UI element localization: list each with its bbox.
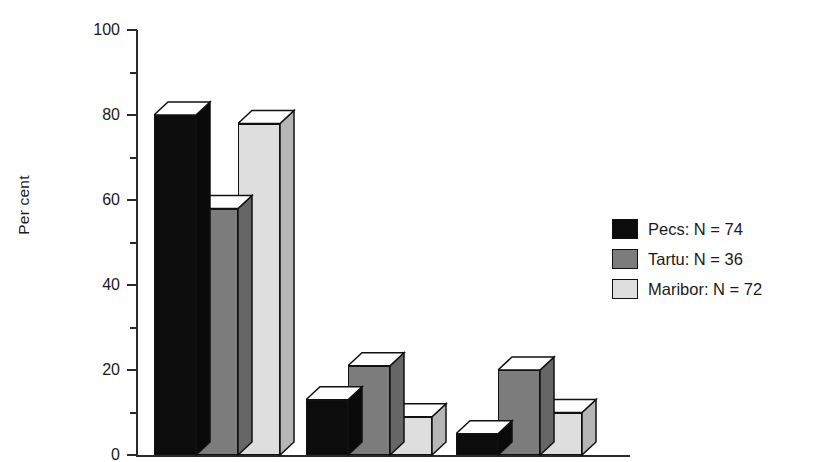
plot-area: [136, 30, 636, 457]
y-axis-tick-label: 60: [58, 192, 120, 208]
y-axis-major-tick: [127, 454, 137, 456]
legend-swatch-icon: [612, 219, 638, 239]
y-axis-minor-tick: [130, 412, 137, 414]
y-axis-label: Per cent: [15, 145, 33, 265]
bar-front-face: [306, 400, 348, 455]
y-axis-tick-label: 40: [58, 277, 120, 293]
legend-item: Maribor: N = 72: [612, 274, 817, 304]
bar: [456, 30, 512, 462]
bar: [154, 30, 210, 462]
y-axis-minor-tick: [130, 327, 137, 329]
y-axis-minor-tick: [130, 72, 137, 74]
y-axis-tick-label: 20: [58, 362, 120, 378]
legend-item-label: Maribor: N = 72: [648, 280, 762, 299]
legend-item-label: Pecs: N = 74: [648, 220, 743, 239]
y-axis-tick-label: 100: [58, 22, 120, 38]
y-axis-tick-labels: 100806040200: [50, 0, 120, 462]
bar-top-face: [306, 30, 362, 462]
y-axis-major-tick: [127, 284, 137, 286]
bar-front-face: [154, 115, 196, 455]
y-axis-major-tick: [127, 114, 137, 116]
y-axis-minor-tick: [130, 157, 137, 159]
bar-chart: Per cent 100806040200 Pecs: N = 74Tartu:…: [0, 0, 823, 462]
legend-swatch-icon: [612, 249, 638, 269]
y-axis-tick-label: 80: [58, 107, 120, 123]
y-axis-tick-label: 0: [58, 447, 120, 462]
y-axis-major-tick: [127, 369, 137, 371]
legend-item: Pecs: N = 74: [612, 214, 817, 244]
y-axis-minor-tick: [130, 242, 137, 244]
bar-top-face: [456, 30, 512, 462]
y-axis-major-tick: [127, 29, 137, 31]
legend-item-label: Tartu: N = 36: [648, 250, 743, 269]
legend-item: Tartu: N = 36: [612, 244, 817, 274]
bar-front-face: [456, 434, 498, 455]
bar: [306, 30, 362, 462]
legend-swatch-icon: [612, 279, 638, 299]
y-axis-major-tick: [127, 199, 137, 201]
chart-legend: Pecs: N = 74Tartu: N = 36Maribor: N = 72: [612, 214, 817, 304]
